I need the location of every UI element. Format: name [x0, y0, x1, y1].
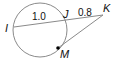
- label-point-j: J: [62, 8, 69, 20]
- label-segment-ij: 1.0: [32, 11, 46, 22]
- label-point-m: M: [60, 48, 70, 60]
- label-point-k: K: [103, 2, 111, 14]
- label-point-i: I: [5, 22, 8, 34]
- label-segment-jk: 0.8: [78, 7, 92, 18]
- diagram-canvas: I J K M 1.0 0.8: [0, 0, 119, 72]
